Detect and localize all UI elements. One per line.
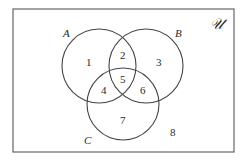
region-8: 8 (170, 126, 176, 138)
region-7: 7 (120, 114, 126, 126)
set-c-label: C (84, 134, 92, 146)
set-b-label: B (175, 27, 182, 39)
region-5: 5 (120, 73, 126, 85)
region-1: 1 (86, 56, 92, 68)
region-6: 6 (140, 84, 146, 96)
set-a-label: A (62, 27, 70, 39)
region-4: 4 (101, 84, 107, 96)
region-2: 2 (120, 49, 126, 61)
venn-diagram: 𝒰 A B C 1 2 3 4 5 6 7 8 (0, 0, 247, 160)
region-3: 3 (156, 56, 162, 68)
